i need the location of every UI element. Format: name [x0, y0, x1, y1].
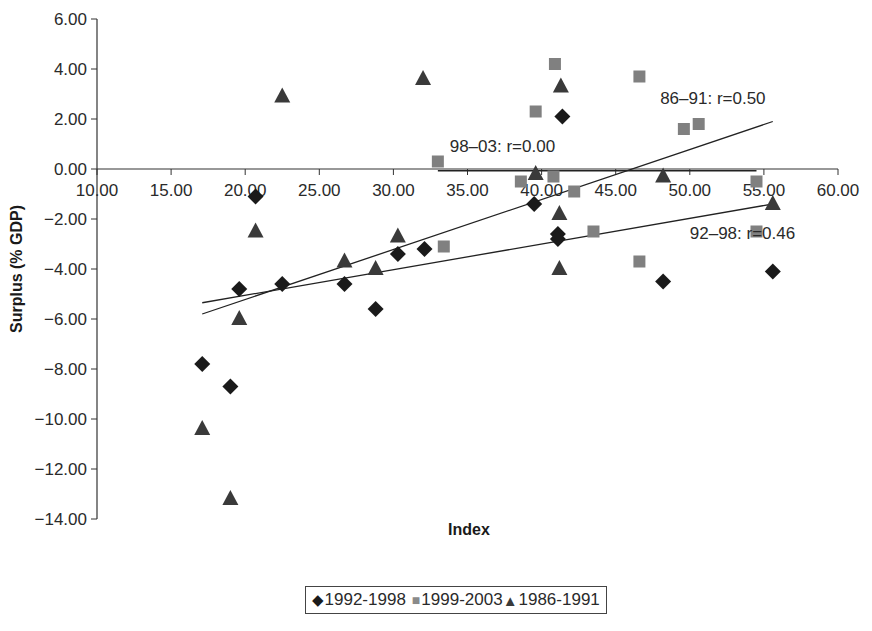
y-tick-label: −4.00 [44, 260, 87, 279]
square-marker [587, 226, 599, 238]
square-marker [693, 118, 705, 130]
diamond-marker [194, 356, 210, 372]
x-tick-label: 10.00 [76, 181, 119, 200]
y-tick-label: 0.00 [54, 160, 87, 179]
triangle-marker [222, 490, 238, 505]
triangle-marker [390, 228, 406, 243]
y-tick-label: 4.00 [54, 60, 87, 79]
legend-label: 1986-1991 [519, 590, 600, 610]
diamond-marker [222, 379, 238, 395]
triangle-marker [655, 168, 671, 183]
y-axis-title: Surplus (% GDP) [8, 205, 25, 333]
x-axis-title: Index [448, 521, 490, 538]
axes: 6.004.002.000.00−2.00−4.00−6.00−8.00−10.… [35, 10, 860, 529]
triangle-marker [415, 70, 431, 85]
x-tick-label: 30.00 [372, 181, 415, 200]
triangle-marker [336, 253, 352, 268]
y-tick-label: −14.00 [35, 510, 87, 529]
legend-item-1986-1991: ▲ 1986-1991 [503, 590, 600, 610]
triangle-marker [551, 260, 567, 275]
square-marker [438, 241, 450, 253]
scatter-chart: 6.004.002.000.00−2.00−4.00−6.00−8.00−10.… [0, 0, 872, 631]
trendline-annotations: 86–91: r=0.5092–98: r=0.4698–03: r=0.00 [450, 89, 795, 243]
square-marker [750, 176, 762, 188]
triangle-marker [248, 223, 264, 238]
triangle-marker [231, 310, 247, 325]
x-tick-label: 45.00 [594, 181, 637, 200]
y-tick-label: −8.00 [44, 360, 87, 379]
y-tick-label: 6.00 [54, 10, 87, 29]
trendline-label: 98–03: r=0.00 [450, 137, 555, 156]
x-tick-label: 55.00 [743, 181, 786, 200]
square-icon: ■ [412, 592, 420, 608]
diamond-icon: ◆ [312, 591, 324, 609]
x-tick-label: 15.00 [150, 181, 193, 200]
y-tick-label: −10.00 [35, 410, 87, 429]
square-marker [547, 171, 559, 183]
triangle-marker [194, 420, 210, 435]
y-tick-label: −6.00 [44, 310, 87, 329]
diamond-marker [368, 301, 384, 317]
diamond-marker [336, 276, 352, 292]
y-tick-label: 2.00 [54, 110, 87, 129]
x-tick-label: 25.00 [298, 181, 341, 200]
x-tick-label: 35.00 [446, 181, 489, 200]
diamond-marker [765, 264, 781, 280]
diamond-marker [655, 274, 671, 290]
square-marker [568, 186, 580, 198]
legend-label: 1999-2003 [421, 590, 502, 610]
trendline-label: 86–91: r=0.50 [660, 89, 765, 108]
triangle-icon: ▲ [503, 592, 518, 609]
legend: ◆ 1992-1998 ■ 1999-2003 ▲ 1986-1991 [305, 586, 607, 614]
data-points [194, 58, 781, 505]
square-marker [432, 156, 444, 168]
triangle-marker [553, 78, 569, 93]
trendline-label: 92–98: r=0.46 [690, 224, 795, 243]
square-marker [515, 176, 527, 188]
triangle-marker [274, 88, 290, 103]
triangle-marker [551, 205, 567, 220]
trendline [202, 204, 773, 303]
square-marker [633, 71, 645, 83]
triangle-marker [368, 260, 384, 275]
x-tick-label: 60.00 [817, 181, 860, 200]
square-marker [633, 256, 645, 268]
diamond-marker [231, 281, 247, 297]
diamond-marker [554, 109, 570, 125]
square-marker [678, 123, 690, 135]
legend-item-1992-1998: ◆ 1992-1998 [312, 590, 406, 610]
legend-label: 1992-1998 [325, 590, 406, 610]
diamond-marker [417, 241, 433, 257]
square-marker [549, 58, 561, 70]
x-tick-label: 50.00 [669, 181, 712, 200]
diamond-marker [390, 246, 406, 262]
y-tick-label: −2.00 [44, 210, 87, 229]
legend-item-1999-2003: ■ 1999-2003 [412, 590, 503, 610]
y-tick-label: −12.00 [35, 460, 87, 479]
square-marker [530, 106, 542, 118]
